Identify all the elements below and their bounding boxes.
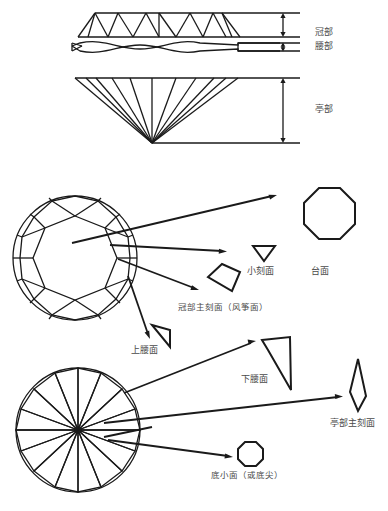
upper-girdle-facet-shape: [152, 325, 170, 347]
label-lower-girdle-facet: 下腰面: [241, 374, 268, 385]
girdle-profile: [72, 42, 300, 53]
table-facet-shape: [304, 188, 355, 239]
label-pavilion: 亭部: [315, 104, 333, 115]
star-facet-shape: [253, 246, 275, 261]
culet-shape: [238, 442, 263, 466]
diagram-page: 冠部 腰部 亭部 台面 小刻面 冠部主刻面（风筝面） 上腰面 下腰面 亭部主刻面…: [0, 0, 388, 511]
pavilion-dimension-arrow: [280, 78, 285, 143]
label-girdle: 腰部: [315, 41, 333, 52]
crown-main-facet-shape: [208, 264, 240, 291]
label-crown-main-facet: 冠部主刻面（风筝面）: [178, 302, 268, 313]
pavilion-view-drawing: [16, 368, 140, 492]
label-upper-girdle-facet: 上腰面: [131, 345, 158, 356]
pavilion-leader-arrows: [104, 340, 343, 459]
pavilion-profile: [75, 78, 300, 143]
label-star-facet: 小刻面: [247, 266, 274, 277]
crown-profile: [78, 13, 300, 37]
label-culet: 底小面（或底尖）: [211, 470, 283, 481]
diamond-facet-figure: [0, 0, 388, 511]
label-pavilion-main-facet: 亭部主刻面: [330, 418, 375, 429]
label-crown: 冠部: [315, 27, 333, 38]
crown-dimension-arrow: [280, 13, 285, 37]
girdle-dimension-arrow: [281, 43, 286, 52]
crown-face-up-drawing: [13, 196, 137, 320]
label-table-facet: 台面: [311, 266, 329, 277]
pavilion-main-facet-shape: [350, 359, 366, 411]
